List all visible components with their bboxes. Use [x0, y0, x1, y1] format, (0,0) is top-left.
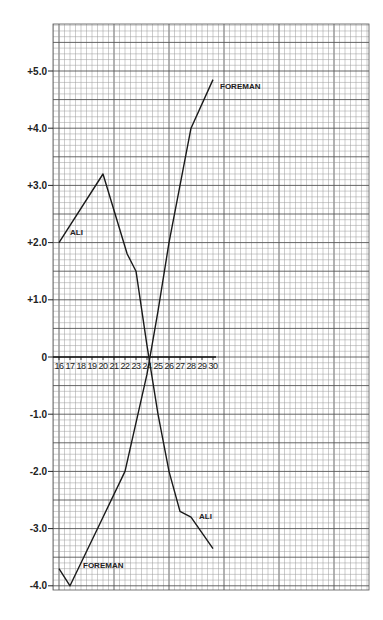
x-tick-label: 16	[54, 361, 64, 371]
y-tick-label: +1.0	[27, 294, 47, 305]
x-axis: 161718192021222324252627282930	[53, 357, 218, 371]
x-tick-label: 27	[175, 361, 185, 371]
x-tick-label: 29	[197, 361, 207, 371]
x-tick-label: 19	[87, 361, 97, 371]
y-tick-label: -3.0	[30, 523, 48, 534]
line-chart: +5.0+4.0+3.0+2.0+1.00-1.0-2.0-3.0-4.0 16…	[0, 0, 383, 620]
y-tick-label: -2.0	[30, 466, 48, 477]
x-tick-label: 23	[131, 361, 141, 371]
y-tick-label: +2.0	[27, 237, 47, 248]
x-tick-label: 26	[164, 361, 174, 371]
x-tick-label: 22	[120, 361, 130, 371]
x-tick-label: 28	[186, 361, 196, 371]
y-tick-label: +5.0	[27, 66, 47, 77]
grid	[53, 24, 369, 590]
label-foreman-upper: FOREMAN	[220, 82, 261, 91]
x-tick-label: 18	[76, 361, 86, 371]
y-tick-label: +3.0	[27, 180, 47, 191]
y-tick-label: -1.0	[30, 409, 48, 420]
x-tick-label: 17	[65, 361, 75, 371]
x-tick-label: 21	[109, 361, 119, 371]
y-tick-label: -4.0	[30, 580, 48, 591]
label-foreman-lower: FOREMAN	[83, 561, 124, 570]
label-ali-lower: ALI	[199, 512, 212, 521]
y-axis: +5.0+4.0+3.0+2.0+1.00-1.0-2.0-3.0-4.0	[27, 66, 53, 592]
label-ali-upper: ALI	[70, 228, 83, 237]
x-tick-label: 25	[153, 361, 163, 371]
y-tick-label: 0	[41, 352, 47, 363]
y-tick-label: +4.0	[27, 123, 47, 134]
x-tick-label: 30	[208, 361, 218, 371]
x-tick-label: 20	[98, 361, 108, 371]
